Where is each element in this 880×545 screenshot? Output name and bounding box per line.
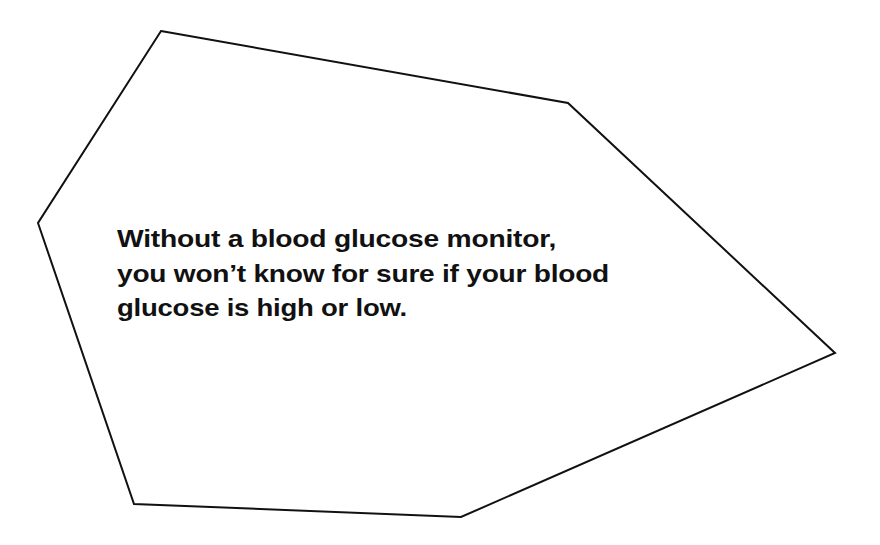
callout-line-2-text: you won’t know for sure if your blood xyxy=(117,257,609,292)
callout-line-1: Without a blood glucose monitor, xyxy=(117,222,556,257)
callout-message: Without a blood glucose monitor, you won… xyxy=(117,222,609,326)
callout-graphic: Without a blood glucose monitor, you won… xyxy=(0,0,880,545)
callout-line-2: you won’t know for sure if your blood xyxy=(117,257,609,292)
callout-line-3: glucose is high or low. xyxy=(117,291,407,326)
callout-line-1-text: Without a blood glucose monitor, xyxy=(117,222,556,257)
callout-line-3-text: glucose is high or low. xyxy=(117,291,407,326)
